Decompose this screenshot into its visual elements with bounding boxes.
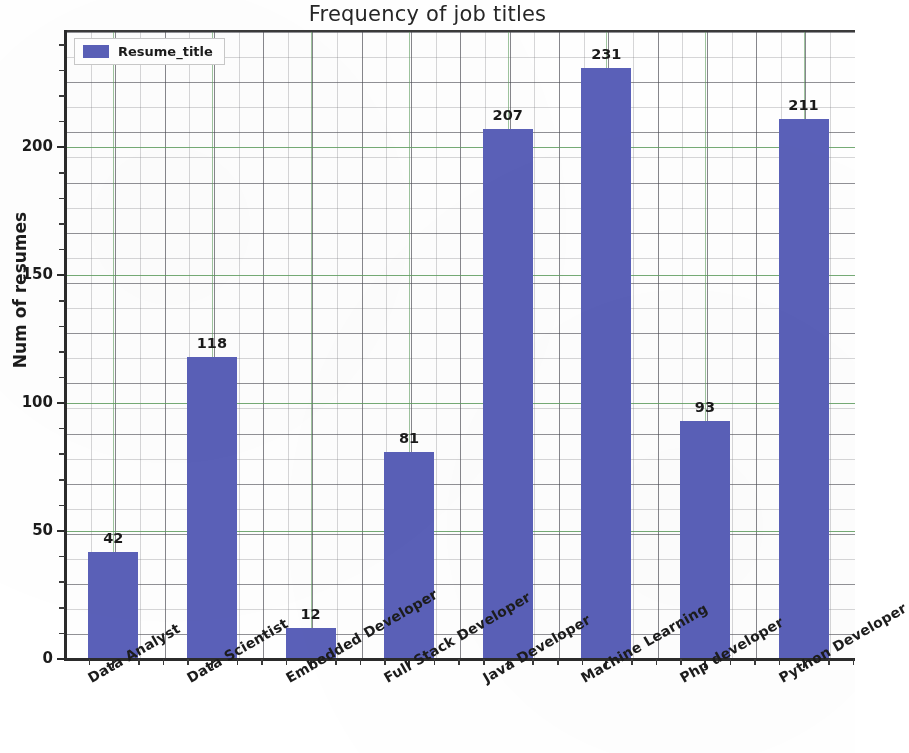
y-tick-minor xyxy=(59,479,65,481)
x-tick-minor xyxy=(335,659,337,665)
bar[interactable] xyxy=(384,452,434,659)
y-tick-minor xyxy=(59,428,65,430)
x-tick-minor xyxy=(557,659,559,665)
bar[interactable] xyxy=(779,119,829,659)
x-tick-minor xyxy=(754,659,756,665)
x-tick-minor xyxy=(853,659,855,665)
y-tick-minor xyxy=(59,223,65,225)
y-tick-minor xyxy=(59,300,65,302)
y-tick-minor xyxy=(59,453,65,455)
y-tick-minor xyxy=(59,607,65,609)
gridline-y-200 xyxy=(66,147,855,148)
x-tick-minor xyxy=(163,659,165,665)
gridline-y-50 xyxy=(66,531,855,532)
y-tick-minor xyxy=(59,121,65,123)
y-tick-minor xyxy=(59,249,65,251)
y-tick-minor xyxy=(59,326,65,328)
x-tick-minor xyxy=(138,659,140,665)
y-axis-label: Num of resumes xyxy=(10,190,30,390)
y-tick-minor xyxy=(59,351,65,353)
bar-value-label: 207 xyxy=(468,107,548,123)
x-tick-minor xyxy=(656,659,658,665)
bar[interactable] xyxy=(88,552,138,659)
chart-legend[interactable]: Resume_title xyxy=(74,38,225,65)
bar-value-label: 12 xyxy=(271,606,351,622)
bar-value-label: 211 xyxy=(764,97,844,113)
bar-value-label: 231 xyxy=(566,46,646,62)
y-tick-minor xyxy=(59,633,65,635)
x-tick-minor xyxy=(89,659,91,665)
y-tick-mark xyxy=(57,274,66,276)
y-tick-label: 0 xyxy=(5,649,53,667)
x-tick-minor xyxy=(458,659,460,665)
y-tick-label: 50 xyxy=(5,521,53,539)
bar-value-label: 118 xyxy=(172,335,252,351)
x-tick-minor xyxy=(237,659,239,665)
y-tick-minor xyxy=(59,172,65,174)
x-tick-minor xyxy=(779,659,781,665)
x-tick-minor xyxy=(828,659,830,665)
x-tick-minor xyxy=(680,659,682,665)
gridline-x-2 xyxy=(311,32,312,659)
chart-title: Frequency of job titles xyxy=(0,2,855,26)
x-tick-minor xyxy=(532,659,534,665)
legend-swatch-resume-title xyxy=(83,45,109,58)
x-tick-minor xyxy=(582,659,584,665)
y-tick-minor xyxy=(59,377,65,379)
y-tick-minor xyxy=(59,95,65,97)
x-tick-minor xyxy=(360,659,362,665)
bar-value-label: 93 xyxy=(665,399,745,415)
bar-value-label: 81 xyxy=(369,430,449,446)
gridline-y-150 xyxy=(66,275,855,276)
x-tick-minor xyxy=(187,659,189,665)
axis-spine-top xyxy=(64,30,855,32)
x-tick-minor xyxy=(730,659,732,665)
y-tick-minor xyxy=(59,581,65,583)
x-tick-minor xyxy=(261,659,263,665)
x-tick-minor xyxy=(434,659,436,665)
y-tick-minor xyxy=(59,505,65,507)
x-tick-minor xyxy=(286,659,288,665)
y-tick-minor xyxy=(59,44,65,46)
bar[interactable] xyxy=(581,68,631,659)
y-tick-mark xyxy=(57,402,66,404)
y-tick-minor xyxy=(59,198,65,200)
x-tick-minor xyxy=(631,659,633,665)
y-tick-minor xyxy=(59,556,65,558)
y-tick-mark xyxy=(57,658,66,660)
y-tick-mark xyxy=(57,146,66,148)
bar-value-label: 42 xyxy=(73,530,153,546)
y-tick-label: 100 xyxy=(5,393,53,411)
x-tick-minor xyxy=(483,659,485,665)
y-tick-label: 150 xyxy=(5,265,53,283)
y-tick-label: 200 xyxy=(5,137,53,155)
axis-spine-left xyxy=(64,30,67,661)
bar[interactable] xyxy=(187,357,237,659)
legend-label-resume-title: Resume_title xyxy=(118,44,213,59)
x-tick-minor xyxy=(384,659,386,665)
y-tick-mark xyxy=(57,530,66,532)
y-tick-minor xyxy=(59,70,65,72)
bar[interactable] xyxy=(483,129,533,659)
